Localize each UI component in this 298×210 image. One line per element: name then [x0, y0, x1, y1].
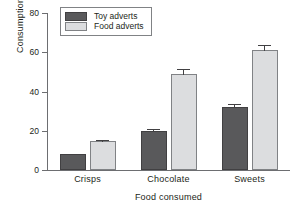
- y-tick-mark: [42, 170, 47, 171]
- bar-chocolate-toy-adverts: [141, 131, 167, 170]
- x-axis-label: Food consumed: [47, 192, 290, 202]
- bar-group: [222, 13, 278, 170]
- bar-sweets-toy-adverts: [222, 107, 248, 170]
- x-tick-label: Sweets: [209, 174, 290, 184]
- bar-crisps-toy-adverts: [60, 154, 86, 170]
- error-bar-cap: [66, 154, 79, 155]
- error-bar: [234, 104, 235, 108]
- x-tick-label: Chocolate: [128, 174, 209, 184]
- legend-item-food-adverts: Food adverts: [65, 22, 144, 31]
- bar-groups: [47, 13, 290, 170]
- error-bar-cap: [96, 140, 109, 141]
- bar-group: [141, 13, 197, 170]
- legend-swatch-toy-adverts: [65, 12, 87, 21]
- legend-swatch-food-adverts: [65, 22, 87, 31]
- bar-group: [60, 13, 116, 170]
- y-axis-label: Consumption (g): [15, 0, 25, 53]
- x-axis-line: [47, 170, 290, 171]
- legend-label-food-adverts: Food adverts: [94, 22, 144, 31]
- bar-chart-figure: 020406080 Consumption (g) CrispsChocolat…: [0, 0, 298, 210]
- bar-sweets-food-adverts: [252, 50, 278, 170]
- y-tick-label: 20: [30, 127, 39, 136]
- error-bar-cap: [258, 45, 271, 46]
- y-tick-label: 60: [30, 48, 39, 57]
- plot-area: 020406080 Consumption (g): [47, 13, 290, 170]
- error-bar: [264, 45, 265, 51]
- error-bar: [72, 154, 73, 156]
- bar-crisps-food-adverts: [90, 141, 116, 170]
- y-tick-label: 80: [30, 9, 39, 18]
- bar-chocolate-food-adverts: [171, 74, 197, 170]
- legend-label-toy-adverts: Toy adverts: [94, 12, 137, 21]
- error-bar-cap: [228, 104, 241, 105]
- error-bar: [102, 140, 103, 142]
- error-bar-cap: [177, 69, 190, 70]
- x-tick-label: Crisps: [47, 174, 128, 184]
- y-tick-label: 40: [30, 87, 39, 96]
- error-bar-cap: [147, 129, 160, 130]
- chart-legend: Toy adverts Food adverts: [60, 7, 152, 36]
- error-bar: [153, 129, 154, 132]
- legend-item-toy-adverts: Toy adverts: [65, 12, 144, 21]
- y-tick-label: 0: [34, 166, 39, 175]
- error-bar: [183, 69, 184, 75]
